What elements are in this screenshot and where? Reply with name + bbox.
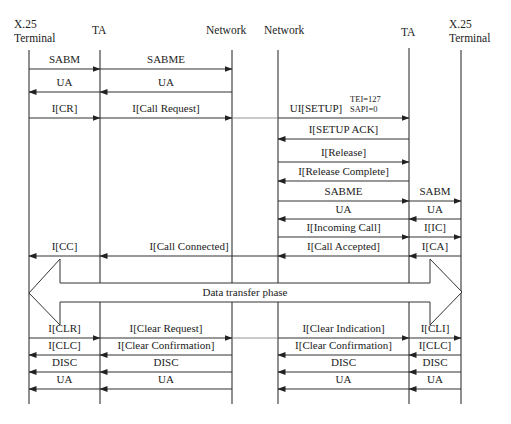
message-label: UA	[57, 76, 73, 88]
message-arrow: UA	[29, 373, 100, 389]
message-label: SABME	[325, 185, 363, 197]
message-arrow: I[CLC]	[409, 339, 461, 355]
message-label: DISC	[52, 356, 77, 368]
data-transfer-phase: Data transfer phase	[29, 259, 462, 325]
message-label: I[Release]	[321, 146, 366, 158]
message-label: I[CR]	[52, 102, 78, 114]
message-label: DISC	[331, 356, 356, 368]
message-label: UI[SETUP]	[290, 102, 343, 114]
message-label: I[IC]	[424, 221, 446, 233]
message-label: I[CLR]	[48, 322, 80, 334]
message-arrow: I[CC]	[29, 240, 100, 256]
message-label: SABME	[147, 53, 185, 65]
message-note-sapi: SAPI=0	[350, 104, 377, 114]
message-note-tei: TEI=127	[350, 94, 381, 104]
message-label: UA	[427, 203, 443, 215]
message-label: I[CC]	[52, 240, 78, 252]
message-label: UA	[336, 373, 352, 385]
header-ta-left: TA	[92, 24, 107, 36]
header-network-right: Network	[264, 24, 304, 36]
message-label: UA	[158, 373, 174, 385]
message-arrow: SABME	[278, 185, 409, 201]
message-label: I[Clear Confirmation]	[118, 339, 215, 351]
message-arrow: I[IC]	[409, 221, 461, 237]
header-x25-right-line1: X.25	[449, 18, 472, 30]
message-arrow: UA	[278, 203, 409, 219]
message-arrow: UA	[278, 373, 409, 389]
message-label: I[Clear Indication]	[302, 322, 384, 334]
messages: SABMSABMEUAUAI[CR]I[Call Request]UI[SETU…	[29, 53, 461, 389]
message-arrow: I[Release Complete]	[278, 165, 409, 181]
message-label: I[Clear Confirmation]	[295, 339, 392, 351]
message-label: SABM	[49, 53, 80, 65]
message-arrow: UA	[100, 373, 232, 389]
message-arrow: I[SETUP ACK]	[278, 123, 409, 139]
message-label: I[Incoming Call]	[306, 221, 380, 233]
message-label: I[CA]	[422, 240, 448, 252]
message-label: I[Call Accepted]	[307, 240, 380, 252]
message-label: UA	[57, 373, 73, 385]
message-arrow: I[Call Request]	[100, 102, 232, 118]
message-label: UA	[158, 76, 174, 88]
message-arrow: I[CA]	[409, 240, 461, 256]
message-label: I[CLC]	[419, 339, 451, 351]
message-arrow: DISC	[278, 356, 409, 372]
message-label: I[CLC]	[48, 339, 80, 351]
message-arrow: I[CLR]	[29, 322, 100, 338]
message-arrow: DISC	[409, 356, 461, 372]
message-arrow: UA	[100, 76, 232, 92]
message-arrow: DISC	[29, 356, 100, 372]
message-arrow: I[Clear Request]	[100, 322, 232, 338]
sequence-diagram: X.25 Terminal TA Network Network TA X.25…	[0, 0, 511, 424]
message-label: I[CLI]	[421, 322, 450, 334]
phase-label: Data transfer phase	[203, 286, 288, 298]
message-arrow: UA	[29, 76, 100, 92]
message-arrow: I[Call Accepted]	[278, 240, 409, 256]
participant-headers: X.25 Terminal TA Network Network TA X.25…	[14, 18, 490, 44]
message-arrow: I[Call Connected]	[100, 240, 278, 256]
message-label: I[SETUP ACK]	[309, 123, 379, 135]
header-x25-left-line2: Terminal	[14, 32, 55, 44]
header-x25-left-line1: X.25	[14, 18, 37, 30]
message-arrow: I[CR]	[29, 102, 100, 118]
message-arrow: UA	[409, 203, 461, 219]
message-label: I[Call Connected]	[149, 240, 228, 252]
message-label: I[Clear Request]	[130, 322, 203, 334]
message-arrow: I[Clear Confirmation]	[100, 339, 232, 355]
message-arrow: I[CLI]	[409, 322, 461, 338]
message-label: I[Release Complete]	[298, 165, 389, 177]
message-arrow: I[Release]	[278, 146, 409, 162]
message-arrow: I[CLC]	[29, 339, 100, 355]
message-label: DISC	[153, 356, 178, 368]
header-x25-right-line2: Terminal	[449, 32, 490, 44]
message-label: DISC	[422, 356, 447, 368]
network-bridges	[232, 118, 278, 338]
message-arrow: SABME	[100, 53, 232, 69]
lifelines	[29, 48, 461, 404]
message-arrow: SABM	[409, 185, 461, 201]
message-label: SABM	[419, 185, 450, 197]
message-arrow: I[Clear Confirmation]	[278, 339, 409, 355]
message-label: UA	[427, 373, 443, 385]
header-ta-right: TA	[401, 26, 416, 38]
message-label: UA	[336, 203, 352, 215]
message-arrow: SABM	[29, 53, 100, 69]
header-network-left: Network	[206, 24, 246, 36]
message-arrow: I[Incoming Call]	[278, 221, 409, 237]
message-arrow: I[Clear Indication]	[278, 322, 409, 338]
message-arrow: UA	[409, 373, 461, 389]
message-arrow: UI[SETUP]TEI=127SAPI=0	[278, 94, 409, 118]
message-arrow: DISC	[100, 356, 232, 372]
message-label: I[Call Request]	[132, 102, 200, 114]
